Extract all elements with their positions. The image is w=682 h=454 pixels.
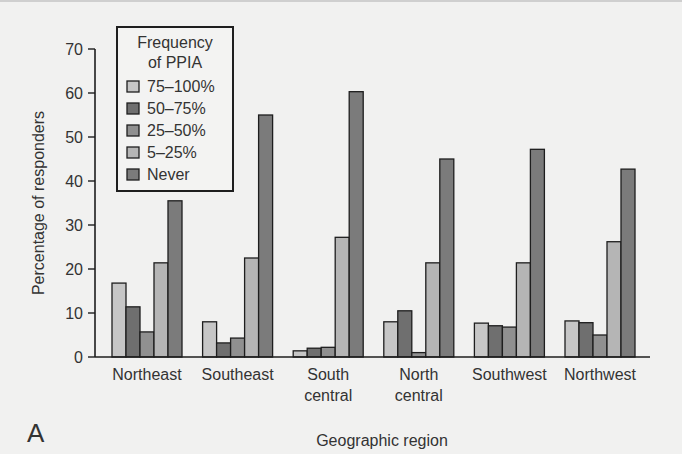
y-axis-title: Percentage of responders xyxy=(30,111,47,295)
bar xyxy=(293,351,307,357)
bar xyxy=(440,159,454,357)
legend-swatch xyxy=(127,81,139,92)
y-tick-label: 30 xyxy=(65,217,83,234)
bar-group xyxy=(293,92,363,357)
bar xyxy=(579,323,593,357)
y-tick-label: 70 xyxy=(65,41,83,58)
x-category-label: Southeast xyxy=(202,366,275,383)
legend-swatch xyxy=(127,103,139,114)
y-axis: 010203040506070 xyxy=(65,41,95,366)
bar xyxy=(154,263,168,357)
legend-item-label: 25–50% xyxy=(147,122,206,139)
bar xyxy=(231,338,245,357)
legend-item-label: 75–100% xyxy=(147,78,215,95)
x-axis: NortheastSoutheastSouthcentralNorthcentr… xyxy=(95,357,650,404)
bar-group xyxy=(565,169,635,357)
bar xyxy=(565,321,579,357)
x-category-label: Southwest xyxy=(472,366,547,383)
bar xyxy=(245,258,259,357)
y-tick-label: 40 xyxy=(65,173,83,190)
legend-item-label: Never xyxy=(147,166,190,183)
bar-group xyxy=(112,201,182,357)
bar-group xyxy=(384,159,454,357)
y-tick-label: 50 xyxy=(65,129,83,146)
y-tick-label: 20 xyxy=(65,261,83,278)
bar xyxy=(593,335,607,357)
legend: Frequencyof PPIA75–100%50–75%25–50%5–25%… xyxy=(117,27,233,191)
legend-item-label: 5–25% xyxy=(147,144,197,161)
x-category-label: central xyxy=(304,387,352,404)
legend-swatch xyxy=(127,125,139,136)
x-category-label: Northwest xyxy=(564,366,637,383)
panel-label: A xyxy=(27,418,45,448)
legend-swatch xyxy=(127,169,139,180)
legend-swatch xyxy=(127,147,139,158)
bar xyxy=(217,343,231,357)
bar xyxy=(112,283,126,357)
x-category-label: North xyxy=(399,366,438,383)
bar xyxy=(307,348,321,357)
bar xyxy=(349,92,363,357)
bar-group xyxy=(474,149,544,357)
bar xyxy=(384,322,398,357)
bar xyxy=(203,322,217,357)
bar xyxy=(474,323,488,357)
legend-title: Frequency xyxy=(137,34,213,51)
bar xyxy=(259,115,273,357)
x-category-label: Northeast xyxy=(112,366,182,383)
bar xyxy=(335,237,349,357)
bar xyxy=(621,169,635,357)
bar xyxy=(321,347,335,357)
bar xyxy=(530,149,544,357)
bar xyxy=(140,332,154,357)
x-category-label: South xyxy=(307,366,349,383)
bar xyxy=(426,263,440,357)
x-axis-title: Geographic region xyxy=(316,432,448,449)
bar xyxy=(168,201,182,357)
bar xyxy=(488,326,502,357)
y-tick-label: 0 xyxy=(74,349,83,366)
bar xyxy=(607,242,621,357)
y-tick-label: 60 xyxy=(65,85,83,102)
legend-item-label: 50–75% xyxy=(147,100,206,117)
y-tick-label: 10 xyxy=(65,305,83,322)
bar xyxy=(126,307,140,357)
legend-title: of PPIA xyxy=(148,54,203,71)
bar xyxy=(398,311,412,357)
bar xyxy=(516,263,530,357)
bar xyxy=(502,327,516,357)
bar-chart: 010203040506070 NortheastSoutheastSouthc… xyxy=(0,0,682,454)
x-category-label: central xyxy=(395,387,443,404)
